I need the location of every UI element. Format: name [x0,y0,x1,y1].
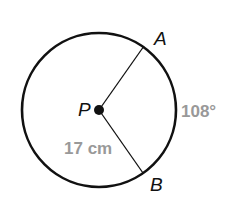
center-point-p [94,105,104,115]
radius-pa [99,46,144,110]
arc-measure-label: 108° [181,102,216,121]
geometry-diagram: P A B 108° 17 cm [0,0,228,204]
diagram-svg: P A B 108° 17 cm [0,0,228,204]
label-a: A [153,28,167,49]
label-b: B [150,174,163,195]
label-p: P [78,99,91,120]
radius-length-label: 17 cm [64,139,112,158]
